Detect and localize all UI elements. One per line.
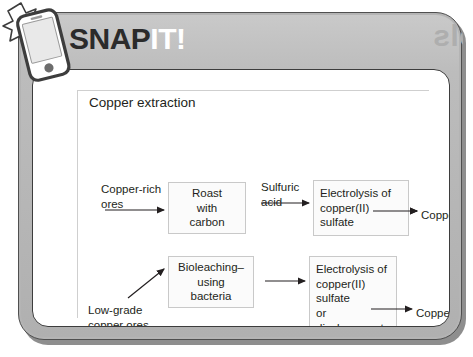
device-frame: Alcohols SNAPIT! Copper extraction Coppe… xyxy=(18,12,462,340)
label-sulfuric-acid-line-2: acid xyxy=(261,195,299,210)
box-bioleach-line-2: using xyxy=(197,275,225,290)
box-electro-1-line-1: Electrolysis of xyxy=(320,186,408,201)
box-roast-line-1: Roast xyxy=(192,186,222,201)
box-bioleach-line-3: bacteria xyxy=(191,289,232,304)
label-low-grade-line-2: copper ores xyxy=(88,318,149,327)
header-watermark-text: Alcohols xyxy=(433,19,463,53)
box-electro-2-line-3: sulfate xyxy=(316,291,396,306)
box-electro-2-line-2: copper(II) xyxy=(316,277,396,292)
label-copper-output-1: Copper xyxy=(421,208,450,223)
label-copper-rich-ores: Copper-rich ores xyxy=(101,182,161,212)
smartphone-icon xyxy=(2,0,82,92)
label-copper-rich-ores-line-1: Copper-rich xyxy=(101,182,161,197)
label-sulfuric-acid-line-1: Sulfuric xyxy=(261,180,299,195)
brand-logo-it: IT! xyxy=(150,22,185,55)
box-electro-1-line-3: sulfate xyxy=(320,215,408,230)
device-screen: Copper extraction Copper-rich ores Low-g… xyxy=(32,69,450,327)
box-electro-1-line-2: copper(II) xyxy=(320,201,408,216)
label-low-grade-copper-ores: Low-grade copper ores xyxy=(88,303,149,327)
box-roast-line-3: carbon xyxy=(189,215,224,230)
label-copper-output-2: Copper xyxy=(416,306,450,321)
diagram-title: Copper extraction xyxy=(89,95,196,110)
label-low-grade-line-1: Low-grade xyxy=(88,303,149,318)
smartphone-body xyxy=(16,8,71,82)
box-electro-2-line-1: Electrolysis of xyxy=(316,262,396,277)
box-roast-with-carbon: Roast with carbon xyxy=(168,182,246,234)
box-electrolysis-or-displacement: Electrolysis of copper(II) sulfate or di… xyxy=(309,256,397,327)
box-electrolysis-copper-sulfate-1: Electrolysis of copper(II) sulfate xyxy=(313,180,409,236)
brand-logo: SNAPIT! xyxy=(69,24,186,54)
box-bioleach-line-1: Bioleaching– xyxy=(178,260,244,275)
label-copper-rich-ores-line-2: ores xyxy=(101,197,161,212)
box-electro-2-line-4: or xyxy=(316,306,396,321)
box-electro-2-line-5: displacement xyxy=(316,321,396,327)
box-roast-line-2: with xyxy=(197,201,217,216)
header-bar: Alcohols SNAPIT! xyxy=(19,13,463,69)
label-sulfuric-acid: Sulfuric acid xyxy=(261,180,299,210)
box-bioleaching-using-bacteria: Bioleaching– using bacteria xyxy=(168,256,254,308)
